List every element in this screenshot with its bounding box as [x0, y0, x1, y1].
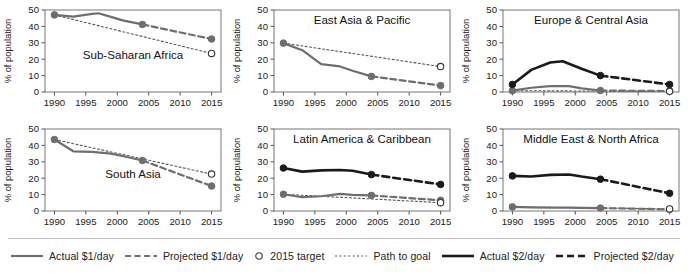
panel-title: Middle East & North Africa	[523, 132, 659, 145]
x-tick-label: 2015	[430, 97, 451, 108]
legend-swatch-dotted	[334, 251, 368, 261]
series-line-projected-dollar2	[600, 76, 669, 85]
y-tick-label: 30	[257, 37, 268, 48]
y-axis-label: % of population	[2, 138, 13, 203]
poverty-trends-figure: 01020304050199019952000200520102015% of …	[0, 0, 688, 274]
x-tick-label: 2000	[565, 216, 586, 227]
y-tick-label: 40	[257, 21, 268, 32]
y-tick-label: 50	[28, 4, 39, 15]
x-tick-label: 1995	[304, 216, 325, 227]
y-tick-label: 30	[486, 156, 497, 167]
series-line-actual-dollar2	[512, 61, 600, 84]
series-line-projected-dollar1	[142, 24, 211, 39]
x-tick-label: 2015	[430, 216, 451, 227]
y-tick-label: 30	[257, 156, 268, 167]
series-line-actual-dollar2	[512, 174, 600, 179]
y-axis-label: % of population	[460, 19, 471, 84]
y-tick-label: 50	[257, 4, 268, 15]
x-tick-label: 1995	[533, 216, 554, 227]
y-tick-label: 10	[28, 189, 39, 200]
y-tick-label: 10	[486, 70, 497, 81]
y-tick-label: 10	[486, 189, 497, 200]
data-point-marker	[509, 87, 516, 94]
x-tick-label: 2010	[169, 216, 190, 227]
y-tick-label: 50	[486, 4, 497, 15]
y-tick-label: 10	[257, 189, 268, 200]
x-tick-label: 2010	[627, 216, 648, 227]
panel-title: Europe & Central Asia	[534, 13, 649, 26]
y-tick-label: 0	[263, 205, 268, 216]
target-marker	[437, 199, 443, 205]
legend-label: Projected $1/day	[163, 250, 243, 262]
data-point-marker	[51, 136, 58, 143]
y-tick-label: 0	[34, 86, 39, 97]
y-tick-label: 50	[28, 123, 39, 134]
y-tick-label: 0	[492, 86, 497, 97]
y-tick-label: 20	[28, 173, 39, 184]
series-line-actual-dollar1	[512, 86, 600, 91]
x-tick-label: 2005	[367, 216, 388, 227]
data-point-marker	[666, 190, 673, 197]
data-point-marker	[280, 165, 287, 172]
data-point-marker	[280, 40, 287, 47]
series-line-actual-dollar1	[54, 13, 142, 24]
legend-label: Projected $2/day	[594, 250, 674, 262]
open-circle-icon	[256, 253, 262, 259]
legend-label: Actual $2/day	[480, 250, 545, 262]
series-line-path-path	[512, 91, 669, 92]
x-tick-label: 2000	[565, 97, 586, 108]
legend-swatch-solid	[10, 251, 44, 261]
x-tick-label: 1990	[273, 97, 294, 108]
y-tick-label: 50	[257, 123, 268, 134]
y-tick-label: 0	[34, 205, 39, 216]
data-point-marker	[509, 204, 516, 211]
y-axis-label: % of population	[2, 19, 13, 84]
legend-item-actual-1-day: Actual $1/day	[10, 250, 114, 262]
legend-item-path-to-goal: Path to goal	[334, 250, 430, 262]
legend-swatch-dashed	[555, 251, 589, 261]
y-tick-label: 0	[263, 86, 268, 97]
x-tick-label: 2015	[201, 97, 222, 108]
y-tick-label: 40	[486, 21, 497, 32]
data-point-marker	[509, 173, 516, 180]
legend-item-2015-target: 2015 target	[253, 250, 324, 262]
series-line-projected-dollar1	[600, 91, 669, 92]
series-line-projected-dollar2	[600, 179, 669, 193]
x-tick-label: 1990	[273, 216, 294, 227]
chart-legend: Actual $1/dayProjected $1/day2015 target…	[0, 238, 688, 274]
legend-item-projected-1-day: Projected $1/day	[124, 250, 243, 262]
x-tick-label: 2005	[596, 97, 617, 108]
series-line-projected-dollar2	[371, 175, 440, 185]
data-point-marker	[280, 191, 287, 198]
x-tick-label: 2010	[627, 97, 648, 108]
data-point-marker	[437, 181, 444, 188]
x-tick-label: 2000	[107, 216, 128, 227]
panel-south-asia: 01020304050199019952000200520102015% of …	[0, 119, 229, 238]
y-tick-label: 10	[257, 70, 268, 81]
series-line-projected-dollar1	[371, 76, 440, 85]
target-marker	[666, 206, 672, 212]
panel-east-asia-pacific: 01020304050199019952000200520102015% of …	[229, 0, 458, 119]
legend-divider	[8, 238, 680, 239]
y-tick-label: 50	[486, 123, 497, 134]
x-tick-label: 1990	[502, 216, 523, 227]
legend-item-projected-2-day: Projected $2/day	[555, 250, 674, 262]
series-line-actual-dollar2	[283, 168, 371, 175]
y-axis-label: % of population	[231, 138, 242, 203]
y-tick-label: 40	[486, 140, 497, 151]
x-tick-label: 1995	[75, 216, 96, 227]
x-tick-label: 2010	[398, 216, 419, 227]
y-tick-label: 0	[492, 205, 497, 216]
target-marker	[437, 63, 443, 69]
y-tick-label: 30	[486, 37, 497, 48]
x-tick-label: 1995	[533, 97, 554, 108]
legend-swatch-solid	[441, 251, 475, 261]
y-tick-label: 30	[28, 37, 39, 48]
series-line-actual-dollar1	[512, 207, 600, 208]
data-point-marker	[51, 12, 58, 19]
x-tick-label: 2000	[336, 216, 357, 227]
y-tick-label: 20	[28, 54, 39, 65]
legend-swatch-dashed	[124, 251, 158, 261]
y-tick-label: 40	[257, 140, 268, 151]
x-tick-label: 2015	[201, 216, 222, 227]
